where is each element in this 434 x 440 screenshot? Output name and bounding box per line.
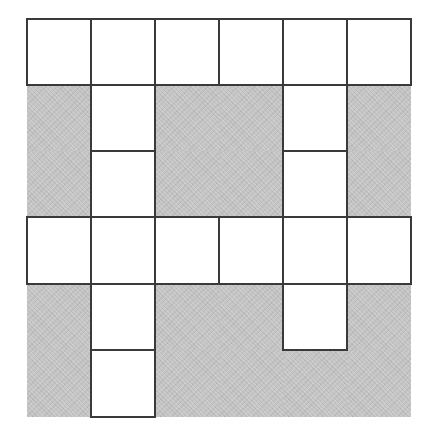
grid-cell-open[interactable] [154, 18, 220, 86]
grid-cell-blocked [283, 350, 347, 417]
grid-cell-open[interactable] [90, 150, 156, 218]
grid-cell-open[interactable] [346, 216, 412, 285]
grid-cell-blocked [219, 151, 283, 217]
grid-cell-open[interactable] [218, 216, 284, 285]
grid-cell-open[interactable] [218, 18, 284, 86]
grid-cell-open[interactable] [282, 283, 348, 351]
grid-cell-blocked [347, 284, 411, 350]
crossword-grid [27, 19, 411, 417]
grid-cell-blocked [155, 151, 219, 217]
grid-cell-open[interactable] [90, 216, 156, 285]
grid-cell-open[interactable] [282, 18, 348, 86]
grid-cell-blocked [347, 350, 411, 417]
grid-cell-blocked [155, 350, 219, 417]
grid-cell-open[interactable] [346, 18, 412, 86]
grid-cell-blocked [27, 350, 91, 417]
grid-cell-blocked [347, 151, 411, 217]
grid-cell-open[interactable] [282, 216, 348, 285]
grid-cell-open[interactable] [90, 283, 156, 351]
grid-cell-open[interactable] [90, 18, 156, 86]
grid-cell-blocked [27, 85, 91, 151]
grid-cell-blocked [347, 85, 411, 151]
grid-cell-open[interactable] [26, 18, 92, 86]
grid-cell-open[interactable] [90, 84, 156, 152]
grid-cell-blocked [155, 85, 219, 151]
grid-cell-open[interactable] [90, 349, 156, 418]
grid-cell-blocked [27, 151, 91, 217]
grid-cell-blocked [219, 350, 283, 417]
grid-cell-blocked [219, 85, 283, 151]
grid-cell-open[interactable] [282, 150, 348, 218]
grid-cell-open[interactable] [26, 216, 92, 285]
grid-cell-blocked [155, 284, 219, 350]
grid-cell-open[interactable] [154, 216, 220, 285]
grid-cell-blocked [27, 284, 91, 350]
grid-cell-blocked [219, 284, 283, 350]
grid-cell-open[interactable] [282, 84, 348, 152]
